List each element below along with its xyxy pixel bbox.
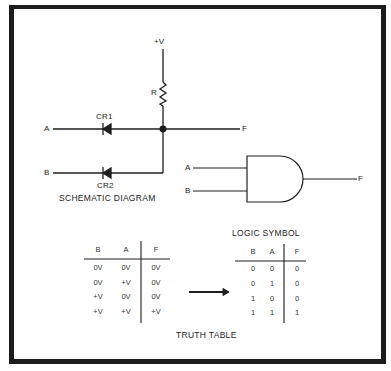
output-f-label: F [242, 125, 247, 133]
diode1-label: CR1 [96, 113, 113, 121]
arrow-right-icon [189, 289, 229, 296]
gate-output-f-label: F [358, 175, 363, 183]
cell: 1 [270, 309, 274, 317]
cell: 0V [151, 264, 160, 272]
cell: 0 [295, 265, 299, 273]
cell: +V [93, 308, 102, 316]
cell: 0V [151, 293, 160, 301]
circuit-drawing [0, 0, 391, 371]
cell: 1 [295, 309, 299, 317]
input-a-label: A [44, 125, 50, 133]
diode-cr1-icon [103, 124, 111, 134]
cell: 0 [295, 280, 299, 288]
gate-input-b-label: B [185, 187, 191, 195]
cell: 0V [121, 293, 130, 301]
cell: +V [93, 293, 102, 301]
diode2-label: CR2 [97, 182, 114, 190]
cell: 0V [151, 279, 160, 287]
resistor-icon [160, 82, 166, 106]
header-b: B [95, 246, 100, 254]
header-a: A [269, 248, 274, 256]
cell: 1 [251, 309, 255, 317]
diode-cr2-icon [103, 168, 111, 178]
cell: +V [121, 308, 130, 316]
logic-symbol-caption: LOGIC SYMBOL [232, 229, 300, 238]
header-f: F [154, 246, 159, 254]
resistor-label: R [151, 89, 157, 97]
header-f: F [295, 248, 300, 256]
and-gate-icon [247, 156, 303, 202]
cell: 0 [270, 265, 274, 273]
header-b: B [250, 248, 255, 256]
cell: 1 [251, 295, 255, 303]
cell: 0 [295, 295, 299, 303]
cell: 0V [121, 264, 130, 272]
gate-input-a-label: A [185, 164, 191, 172]
cell: 1 [270, 280, 274, 288]
cell: +V [151, 308, 160, 316]
junction-dot [160, 126, 166, 132]
header-a: A [123, 246, 128, 254]
cell: 0V [93, 264, 102, 272]
truth-table-caption: TRUTH TABLE [176, 331, 237, 340]
cell: 0 [251, 280, 255, 288]
cell: +V [121, 279, 130, 287]
input-b-label: B [44, 169, 50, 177]
cell: 0V [93, 279, 102, 287]
cell: 0 [251, 265, 255, 273]
schematic-caption: SCHEMATIC DIAGRAM [59, 194, 156, 203]
supply-label: +V [154, 38, 164, 46]
cell: 0 [270, 295, 274, 303]
